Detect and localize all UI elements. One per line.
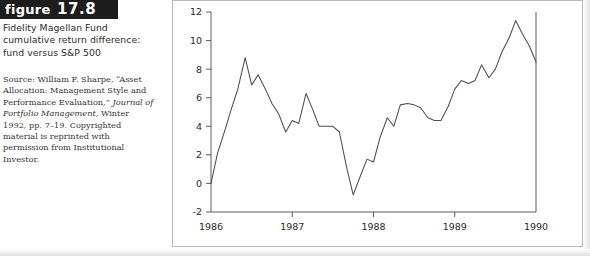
figure-title: Fidelity Magellan Fund cumulative return…	[3, 22, 153, 59]
caption-column: figure 17.8 Fidelity Magellan Fund cumul…	[0, 0, 166, 256]
figure-page: figure 17.8 Fidelity Magellan Fund cumul…	[0, 0, 590, 256]
x-tick-label: 1987	[280, 221, 304, 232]
x-tick-label: 1989	[443, 221, 467, 232]
data-series-line	[211, 21, 536, 195]
figure-banner: figure 17.8	[0, 0, 118, 19]
figure-source-note: Source: William F. Sharpe, “Asset Alloca…	[3, 74, 155, 165]
y-tick-label: 8	[196, 64, 202, 75]
figure-banner-number: 17.8	[57, 0, 96, 19]
y-tick-label: 6	[196, 92, 202, 103]
x-axis-ticks: 19861987198819891990	[199, 212, 548, 232]
y-axis-ticks: -2024681012	[190, 6, 211, 217]
y-tick-label: 0	[196, 178, 202, 189]
x-tick-label: 1990	[524, 221, 548, 232]
page-edge-right	[583, 0, 590, 256]
y-tick-label: 10	[190, 35, 202, 46]
x-tick-label: 1986	[199, 221, 223, 232]
y-tick-label: 4	[196, 121, 202, 132]
y-tick-label: -2	[193, 206, 202, 217]
y-tick-label: 12	[190, 6, 202, 17]
x-tick-label: 1988	[361, 221, 385, 232]
figure-banner-word: figure	[5, 1, 51, 18]
chart-panel: -2024681012 19861987198819891990	[172, 0, 583, 247]
line-chart: -2024681012 19861987198819891990	[173, 1, 582, 246]
y-tick-label: 2	[196, 149, 202, 160]
page-edge-bottom	[0, 249, 590, 256]
